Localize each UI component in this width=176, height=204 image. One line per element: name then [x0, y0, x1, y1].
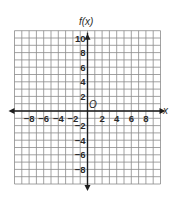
- y-tick-label: −4: [75, 135, 87, 146]
- y-tick-label: −2: [75, 120, 86, 131]
- y-axis-label: f(x): [79, 16, 93, 27]
- y-tick-label: 2: [80, 91, 85, 102]
- y-tick-label: 6: [80, 62, 85, 73]
- x-tick-label: 8: [143, 113, 148, 124]
- y-tick-label: −6: [75, 149, 86, 160]
- origin-label: O: [89, 99, 97, 110]
- axes: [9, 33, 166, 191]
- x-tick-label: 4: [114, 113, 120, 124]
- y-axis-down-arrow-icon: [85, 185, 91, 191]
- x-tick-label: −6: [38, 113, 49, 124]
- x-axis-left-arrow-icon: [9, 108, 15, 114]
- y-tick-label: 10: [75, 33, 86, 44]
- x-tick-label: 2: [99, 113, 104, 124]
- coordinate-plane: −8−6−4−22468108642−2−4−6−8 f(x) x O: [0, 0, 176, 204]
- x-tick-label: −8: [24, 113, 35, 124]
- x-tick-label: −4: [53, 113, 65, 124]
- y-tick-label: −8: [75, 164, 86, 175]
- x-axis-label: x: [162, 105, 169, 116]
- x-tick-label: 6: [129, 113, 134, 124]
- y-tick-label: 8: [80, 47, 85, 58]
- y-tick-label: 4: [80, 76, 86, 87]
